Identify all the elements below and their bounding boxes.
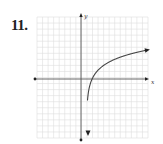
curve-top-arrow-icon [145,48,150,53]
x-axis-right-arrow-icon [145,77,149,80]
curve-bottom-arrow-icon [86,131,91,137]
y-axis-bottom-arrow-icon [80,139,83,142]
x-axis-label: x [151,78,155,85]
log-curve [87,50,147,100]
coordinate-graph: x y [0,0,163,144]
y-axis-label: y [83,12,88,20]
x-axis-left-arrow-icon [34,78,37,81]
y-axis-top-arrow-icon [79,13,82,17]
